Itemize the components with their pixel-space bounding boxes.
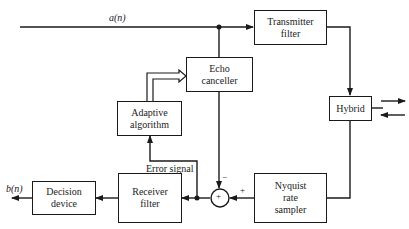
output-signal-label: b(n) <box>6 183 23 194</box>
decision-device-block: Decision device <box>32 181 96 215</box>
echo-canceller-block: Echo canceller <box>186 57 253 92</box>
transmitter-filter-label-2: filter <box>267 28 313 40</box>
echo-canceller-label-1: Echo <box>201 63 237 75</box>
transmitter-filter-block: Transmitter filter <box>254 10 327 45</box>
summer-plus-sign: + <box>240 185 245 195</box>
input-signal-label: a(n) <box>109 12 126 23</box>
decision-device-label-1: Decision <box>46 186 82 198</box>
error-signal-label: Error signal <box>146 163 194 174</box>
receiver-filter-label-1: Receiver <box>132 186 168 198</box>
adaptive-algorithm-label-2: algorithm <box>130 119 169 131</box>
echo-canceller-label-2: canceller <box>201 75 237 87</box>
adaptive-algorithm-block: Adaptive algorithm <box>117 101 182 136</box>
decision-device-label-2: device <box>46 198 82 210</box>
summer-minus-sign: − <box>222 172 227 182</box>
nyquist-label-1: Nyquist <box>275 180 307 192</box>
wire-tx-to-hybrid <box>326 27 350 95</box>
receiver-filter-label-2: filter <box>132 198 168 210</box>
nyquist-rate-sampler-block: Nyquist rate sampler <box>254 173 327 223</box>
adaptation-double-arrow <box>147 70 186 101</box>
nyquist-label-3: sampler <box>275 204 307 216</box>
summer-symbol: + <box>216 191 221 201</box>
adaptive-algorithm-label-1: Adaptive <box>130 107 169 119</box>
nyquist-label-2: rate <box>275 192 307 204</box>
wire-hybrid-to-nyquist <box>327 120 350 198</box>
transmitter-filter-label-1: Transmitter <box>267 16 313 28</box>
receiver-filter-block: Receiver filter <box>118 173 182 223</box>
hybrid-block: Hybrid <box>329 96 372 121</box>
hybrid-label: Hybrid <box>336 103 364 115</box>
